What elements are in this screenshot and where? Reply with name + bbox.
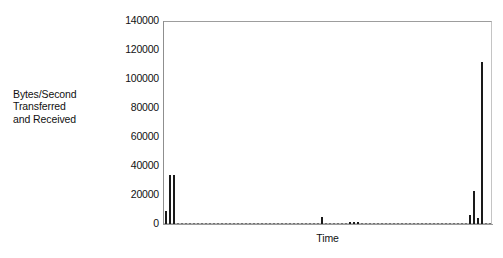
bar xyxy=(421,223,423,224)
bar xyxy=(361,223,363,224)
bar xyxy=(197,223,199,224)
bar xyxy=(201,223,203,224)
bar xyxy=(213,223,215,224)
y-tick-label: 120000 xyxy=(101,43,159,55)
bar-series xyxy=(164,21,492,224)
bar xyxy=(177,223,179,224)
bar xyxy=(257,223,259,224)
bar xyxy=(369,223,371,224)
y-tick-label: 40000 xyxy=(101,159,159,171)
bar xyxy=(429,223,431,224)
bar xyxy=(309,223,311,224)
bar xyxy=(233,223,235,224)
bar xyxy=(489,223,491,224)
x-axis-label: Time xyxy=(163,232,492,244)
bar xyxy=(281,223,283,224)
bar xyxy=(321,217,323,224)
bar xyxy=(389,223,391,224)
bar xyxy=(461,223,463,224)
bar xyxy=(385,223,387,224)
chart-figure: Bytes/Second Transferred and Received 14… xyxy=(0,0,503,258)
bar xyxy=(481,62,483,224)
bar xyxy=(253,223,255,224)
bar xyxy=(325,223,327,224)
bar xyxy=(409,223,411,224)
bar xyxy=(349,222,351,224)
bar xyxy=(305,223,307,224)
y-tick-label: 140000 xyxy=(101,14,159,26)
bar xyxy=(265,223,267,224)
bar xyxy=(469,215,471,224)
bar xyxy=(317,223,319,224)
bar xyxy=(173,175,175,224)
bar xyxy=(449,223,451,224)
y-tick-label: 20000 xyxy=(101,188,159,200)
bar xyxy=(473,191,475,224)
bar xyxy=(285,223,287,224)
bar xyxy=(441,223,443,224)
bar xyxy=(457,223,459,224)
bar xyxy=(273,223,275,224)
bar xyxy=(241,223,243,224)
bar xyxy=(337,223,339,224)
bar xyxy=(365,223,367,224)
x-axis-baseline xyxy=(163,224,493,225)
bar xyxy=(185,223,187,224)
bar xyxy=(425,223,427,224)
bar xyxy=(433,223,435,224)
y-axis-tick-labels: 140000120000100000800006000040000200000 xyxy=(97,0,159,258)
bar xyxy=(277,223,279,224)
bar xyxy=(181,223,183,224)
bar xyxy=(225,223,227,224)
y-tick-label: 0 xyxy=(101,217,159,229)
bar xyxy=(329,223,331,224)
bar xyxy=(373,223,375,224)
bar xyxy=(193,223,195,224)
bar xyxy=(405,223,407,224)
bar xyxy=(221,223,223,224)
bar xyxy=(205,223,207,224)
bar xyxy=(377,223,379,224)
bar xyxy=(341,223,343,224)
bar xyxy=(477,218,479,224)
bar xyxy=(245,223,247,224)
y-tick-label: 100000 xyxy=(101,72,159,84)
bar xyxy=(165,211,167,224)
bar xyxy=(209,223,211,224)
bar xyxy=(397,223,399,224)
bar xyxy=(261,223,263,224)
bar xyxy=(353,222,355,224)
bar xyxy=(297,223,299,224)
bar xyxy=(249,223,251,224)
bar xyxy=(333,223,335,224)
bar xyxy=(417,223,419,224)
bar xyxy=(301,223,303,224)
bar xyxy=(357,222,359,224)
bar xyxy=(413,223,415,224)
bar xyxy=(189,223,191,224)
bar xyxy=(313,223,315,224)
bar xyxy=(293,223,295,224)
bar xyxy=(453,223,455,224)
bar xyxy=(269,223,271,224)
bar xyxy=(437,223,439,224)
bar xyxy=(229,223,231,224)
bar xyxy=(345,223,347,224)
y-tick-label: 60000 xyxy=(101,130,159,142)
bar xyxy=(445,223,447,224)
bar xyxy=(217,223,219,224)
bar xyxy=(169,175,171,224)
bar xyxy=(465,223,467,224)
bar xyxy=(381,223,383,224)
bar xyxy=(237,223,239,224)
y-tick-label: 80000 xyxy=(101,101,159,113)
bar xyxy=(485,223,487,224)
bar xyxy=(401,223,403,224)
bar xyxy=(289,223,291,224)
bar xyxy=(393,223,395,224)
